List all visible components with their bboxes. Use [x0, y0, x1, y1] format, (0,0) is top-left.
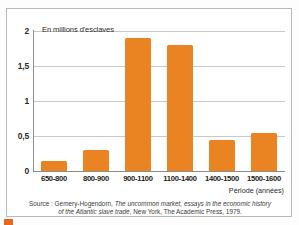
- x-tick-label-1: 800-900: [75, 174, 117, 183]
- bar-slot-1100-1400: [159, 31, 201, 171]
- y-tick-label-1_5: 1,5: [18, 61, 29, 71]
- source-line2-italic: of the Atlantic slave trade: [58, 208, 130, 215]
- x-axis-title: Période (années): [229, 186, 284, 195]
- y-tick-label-2: 2: [24, 26, 29, 36]
- bar-slot-900-1100: [117, 31, 159, 171]
- corner-mark: [4, 219, 13, 225]
- x-tick-label-4: 1400-1500: [201, 174, 243, 183]
- y-axis-tick-labels: 2 1,5 1 0,5 0: [4, 31, 29, 171]
- bars-group: [33, 31, 285, 171]
- bar-900-1100[interactable]: [125, 38, 150, 171]
- bar-1500-1600[interactable]: [251, 133, 276, 172]
- bar-1100-1400[interactable]: [167, 45, 192, 171]
- x-tick-label-2: 900-1100: [117, 174, 159, 183]
- x-axis-line: [33, 171, 285, 172]
- source-line1-italic: The uncommon market, essays in the econo…: [115, 200, 271, 207]
- source-line1-prefix: Source : Gemery-Hogendorn,: [29, 200, 115, 207]
- y-tick-label-0: 0: [24, 166, 29, 176]
- bar-slot-1400-1500: [201, 31, 243, 171]
- x-tick-label-5: 1500-1600: [243, 174, 285, 183]
- bar-650-800[interactable]: [41, 161, 66, 172]
- bar-slot-1500-1600: [243, 31, 285, 171]
- x-tick-label-0: 650-800: [33, 174, 75, 183]
- x-tick-label-3: 1100-1400: [159, 174, 201, 183]
- source-line2-suffix: , New York, The Academic Press, 1979.: [130, 208, 242, 215]
- y-tick-label-1: 1: [24, 96, 29, 106]
- source-note: Source : Gemery-Hogendorn, The uncommon …: [18, 200, 282, 216]
- bar-800-900[interactable]: [83, 150, 108, 171]
- y-tick-label-0_5: 0,5: [18, 131, 29, 141]
- bar-slot-650-800: [33, 31, 75, 171]
- x-axis-tick-labels: 650-800 800-900 900-1100 1100-1400 1400-…: [33, 174, 285, 183]
- bar-slot-800-900: [75, 31, 117, 171]
- bar-1400-1500[interactable]: [209, 140, 234, 172]
- figure-container: 2 1,5 1 0,5 0 En millions d'esclaves 650…: [0, 0, 299, 225]
